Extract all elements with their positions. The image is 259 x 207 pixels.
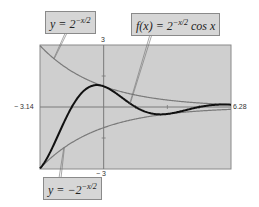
annotation-lower-text: y = −2 — [48, 183, 82, 197]
y-min-tick-label: − 3 — [96, 170, 106, 177]
annotation-upper-envelope: y = 2−x/2 — [45, 11, 96, 34]
annotation-upper-text: y = 2 — [50, 17, 75, 31]
annotation-upper-exponent: −x/2 — [75, 16, 90, 25]
annotation-lower-exponent: −x/2 — [82, 182, 97, 191]
y-max-tick-label: 3 — [101, 36, 105, 43]
x-min-tick-label: − 3.14 — [14, 103, 34, 110]
annotation-f-function: f(x) = 2−x/2 cos x — [131, 13, 220, 36]
annotation-f-exponent: −x/2 — [173, 18, 188, 27]
annotation-f-cos: cos x — [188, 19, 215, 33]
x-max-tick-label: 6.28 — [233, 103, 247, 110]
annotation-lower-envelope: y = −2−x/2 — [43, 177, 102, 200]
annotation-f-text: f(x) = 2 — [136, 19, 173, 33]
